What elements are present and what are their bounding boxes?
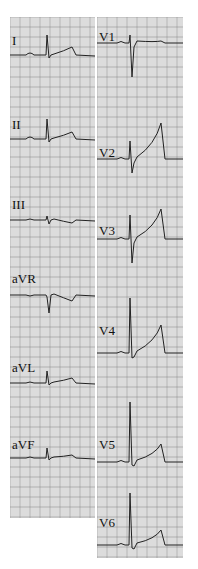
lead-label-avr: aVR bbox=[12, 271, 36, 286]
lead-label-i: I bbox=[12, 33, 16, 48]
ecg-grid: IIIIIIaVRaVLaVF bbox=[10, 17, 95, 518]
lead-label-v6: V6 bbox=[99, 515, 115, 530]
lead-label-ii: II bbox=[12, 117, 21, 132]
ecg-precordial-leads-panel: V1V2V3V4V5V6 bbox=[97, 17, 183, 558]
lead-label-avl: aVL bbox=[12, 360, 35, 375]
lead-label-v1: V1 bbox=[99, 29, 115, 44]
lead-label-v5: V5 bbox=[99, 437, 115, 452]
lead-label-v3: V3 bbox=[99, 223, 115, 238]
lead-label-v4: V4 bbox=[99, 323, 115, 338]
ecg-grid: V1V2V3V4V5V6 bbox=[97, 17, 183, 558]
lead-label-iii: III bbox=[12, 197, 25, 212]
lead-label-v2: V2 bbox=[99, 145, 115, 160]
lead-label-avf: aVF bbox=[12, 437, 34, 452]
ecg-limb-leads-panel: IIIIIIaVRaVLaVF bbox=[10, 17, 95, 518]
